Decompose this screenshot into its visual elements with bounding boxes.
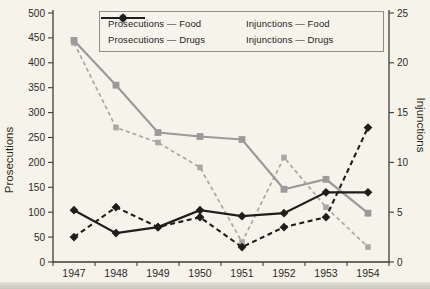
- page-edge-shadow: [0, 282, 430, 289]
- square-marker-icon: [365, 244, 371, 250]
- y-right-tick-label: 15: [397, 107, 409, 118]
- y-left-tick-label: 350: [28, 82, 45, 93]
- right-axis-title: Injunctions: [415, 98, 427, 153]
- series-line: [74, 128, 368, 248]
- legend-item: Prosecutions — Drugs: [108, 34, 246, 45]
- legend: Prosecutions — FoodInjunctions — FoodPro…: [99, 11, 384, 52]
- diamond-marker-icon: [112, 229, 121, 238]
- x-tick-label: 1954: [356, 267, 380, 279]
- y-right-tick-label: 10: [397, 157, 409, 168]
- diamond-marker-icon: [322, 188, 331, 197]
- square-marker-icon: [365, 210, 372, 217]
- left-axis-title: Prosecutions: [3, 127, 15, 194]
- square-marker-icon: [197, 133, 204, 140]
- x-tick-label: 1948: [104, 267, 128, 279]
- y-left-tick-label: 250: [28, 132, 45, 143]
- square-marker-icon: [113, 82, 120, 89]
- diamond-marker-icon: [154, 223, 163, 232]
- diamond-marker-icon: [280, 223, 289, 232]
- square-marker-icon: [155, 129, 162, 136]
- y-left-tick-label: 200: [28, 157, 45, 168]
- figure: 0501001502002503003504004505000510152025…: [0, 0, 430, 289]
- y-left-tick-label: 450: [28, 32, 45, 43]
- legend-label: Prosecutions — Drugs: [108, 34, 205, 45]
- y-left-tick-label: 300: [28, 107, 45, 118]
- y-left-tick-label: 500: [28, 8, 45, 19]
- y-left-tick-label: 0: [39, 257, 45, 268]
- legend-item: Injunctions — Drugs: [246, 34, 377, 45]
- square-marker-icon: [71, 37, 78, 44]
- legend-label: Injunctions — Food: [246, 18, 330, 29]
- diamond-marker-icon: [322, 213, 331, 222]
- x-tick-label: 1953: [314, 267, 338, 279]
- square-marker-icon: [113, 125, 119, 131]
- series-prosecutions-drugs: [70, 188, 373, 238]
- legend-item: Injunctions — Food: [246, 18, 377, 29]
- diamond-marker-icon: [364, 188, 373, 197]
- y-left-tick-label: 100: [28, 207, 45, 218]
- square-marker-icon: [281, 186, 288, 193]
- x-tick-label: 1949: [146, 267, 170, 279]
- y-left-tick-label: 50: [34, 232, 46, 243]
- y-right-tick-label: 25: [397, 8, 409, 19]
- square-marker-icon: [155, 140, 161, 146]
- y-left-tick-label: 400: [28, 57, 45, 68]
- square-marker-icon: [281, 155, 287, 161]
- y-right-tick-label: 20: [397, 57, 409, 68]
- diamond-marker-icon: [280, 209, 289, 218]
- diamond-marker-icon: [70, 206, 79, 215]
- legend-sample-icon: [100, 12, 146, 24]
- square-marker-icon: [323, 176, 330, 183]
- x-tick-label: 1951: [230, 267, 254, 279]
- diamond-marker-icon: [364, 123, 373, 132]
- diamond-marker-icon: [196, 206, 205, 215]
- diamond-marker-icon: [238, 212, 247, 221]
- x-tick-label: 1952: [272, 267, 296, 279]
- square-marker-icon: [323, 204, 329, 210]
- x-tick-label: 1950: [188, 267, 212, 279]
- y-right-tick-label: 5: [397, 207, 403, 218]
- legend-label: Injunctions — Drugs: [246, 34, 333, 45]
- y-left-tick-label: 150: [28, 182, 45, 193]
- square-marker-icon: [197, 165, 203, 171]
- y-right-tick-label: 0: [397, 257, 403, 268]
- series-line: [74, 192, 368, 233]
- x-tick-label: 1947: [62, 267, 86, 279]
- square-marker-icon: [239, 136, 246, 143]
